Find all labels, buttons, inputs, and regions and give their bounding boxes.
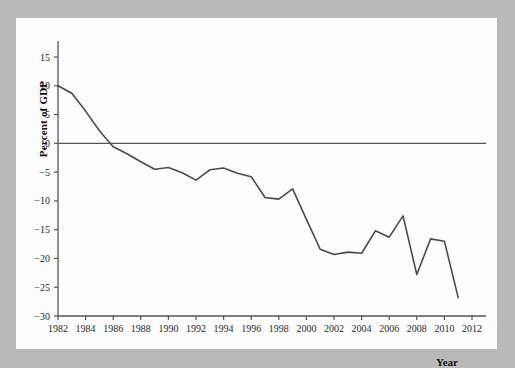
data-series-line xyxy=(58,86,458,298)
x-tick-label: 2010 xyxy=(434,323,454,334)
y-axis-label: Percent of GDP xyxy=(35,54,51,184)
y-tick-label: −10 xyxy=(34,195,50,206)
x-axis-label-text: Year xyxy=(436,356,458,368)
x-tick-label: 1982 xyxy=(48,323,68,334)
x-axis-label: Year xyxy=(436,356,458,368)
line-chart-svg: 151050−5−10−15−20−25−30 1982198419861988… xyxy=(16,18,497,349)
x-tick-group: 1982198419861988199019921994199619982000… xyxy=(48,316,482,334)
x-tick-label: 2004 xyxy=(352,323,372,334)
y-tick-label: −20 xyxy=(34,253,50,264)
y-tick-label: −30 xyxy=(34,311,50,322)
x-tick-label: 1996 xyxy=(241,323,261,334)
x-tick-label: 1998 xyxy=(269,323,289,334)
axis-group xyxy=(58,41,486,316)
x-tick-label: 1984 xyxy=(76,323,96,334)
figure-paper: 151050−5−10−15−20−25−30 1982198419861988… xyxy=(16,18,497,349)
y-tick-label: −25 xyxy=(34,282,50,293)
x-tick-label: 2006 xyxy=(379,323,399,334)
x-tick-label: 1992 xyxy=(186,323,206,334)
x-tick-label: 1990 xyxy=(158,323,178,334)
x-tick-label: 1988 xyxy=(131,323,151,334)
x-tick-label: 2000 xyxy=(296,323,316,334)
x-tick-label: 2012 xyxy=(462,323,482,334)
x-tick-label: 1994 xyxy=(214,323,234,334)
x-tick-label: 2008 xyxy=(407,323,427,334)
x-tick-label: 1986 xyxy=(103,323,123,334)
y-tick-label: −15 xyxy=(34,224,50,235)
chart-plot-area: 151050−5−10−15−20−25−30 1982198419861988… xyxy=(16,18,497,349)
y-axis-label-text: Percent of GDP xyxy=(37,81,49,158)
x-tick-label: 2002 xyxy=(324,323,344,334)
